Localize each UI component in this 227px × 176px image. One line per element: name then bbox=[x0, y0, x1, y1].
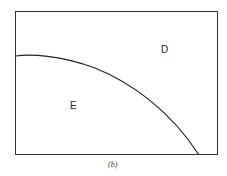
frame bbox=[16, 12, 218, 155]
boundary-curve bbox=[16, 55, 200, 155]
diagram-canvas bbox=[0, 0, 227, 176]
region-label-d: D bbox=[161, 44, 168, 55]
region-label-e: E bbox=[70, 100, 77, 111]
figure-caption: (b) bbox=[108, 160, 117, 169]
